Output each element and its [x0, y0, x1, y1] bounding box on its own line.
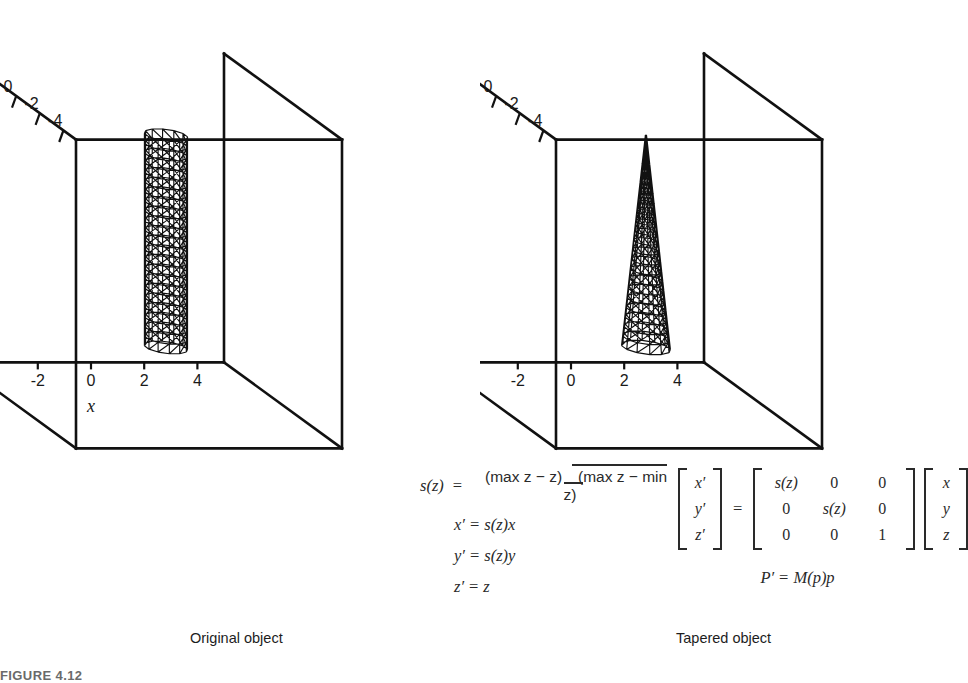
equation-y-prime-rhs: s(z)y	[484, 546, 515, 565]
figure-number: FIGURE 4.12	[0, 668, 82, 683]
equation-z-prime-lhs: z′	[454, 577, 464, 596]
matrix-equations: x′ y′ z′ = s(z) 0 0 0 s(z) 0	[678, 468, 959, 588]
s-of-z-definition: s(z) = (max z − z) (max z − min z)	[420, 468, 675, 504]
matrix-summary-rhs: M(p)p	[793, 568, 834, 587]
equation-z-prime-op: =	[464, 577, 483, 596]
matrix-cell: 0	[810, 522, 858, 548]
x-tick-label: 2	[620, 372, 629, 389]
y-tick-label: -2	[24, 95, 38, 112]
input-vector: x y z	[924, 468, 968, 550]
fraction-numerator: (max z − z)	[479, 468, 568, 487]
x-tick-label: 4	[193, 372, 202, 389]
result-vector: x′ y′ z′	[678, 468, 722, 550]
equation-x-prime-lhs: x′	[454, 515, 465, 534]
s-of-z-fraction: (max z − z) (max z − min z)	[471, 468, 675, 504]
equation-y-prime: y′=s(z)y	[454, 546, 675, 566]
x-tick-label: 0	[567, 372, 576, 389]
x-tick-label: 4	[673, 372, 682, 389]
fraction-denominator: (max z − min z)	[564, 464, 668, 503]
equation-y-prime-op: =	[465, 546, 484, 565]
matrix-equals: =	[731, 499, 744, 519]
caption-tapered-object: Tapered object	[676, 630, 771, 646]
matrix-equation: x′ y′ z′ = s(z) 0 0 0 s(z) 0	[678, 468, 959, 550]
input-vector-cell: x	[933, 470, 959, 496]
x-tick-label: -2	[31, 372, 45, 389]
y-tick-label: 0	[484, 78, 493, 95]
mesh-cone	[622, 135, 671, 355]
x-tick-label: 0	[87, 372, 96, 389]
input-vector-cell: y	[933, 496, 959, 522]
equation-z-prime-rhs: z	[483, 577, 489, 596]
x-tick-label: 2	[140, 372, 149, 389]
result-vector-cell: z′	[687, 522, 713, 548]
matrix-summary-lhs: P′	[760, 568, 774, 587]
caption-original-object: Original object	[190, 630, 283, 646]
y-tick-label: -2	[504, 95, 518, 112]
caption-row: Original object Tapered object	[0, 630, 959, 654]
matrix-cell: 0	[858, 496, 906, 522]
y-tick-label: -4	[528, 112, 542, 129]
matrix-cell: 0	[762, 496, 810, 522]
matrix-cell: s(z)	[810, 496, 858, 522]
equation-y-prime-lhs: y′	[454, 546, 465, 565]
x-axis-label: x	[86, 396, 95, 416]
x-tick-label: -2	[511, 372, 525, 389]
transform-matrix: s(z) 0 0 0 s(z) 0 0 0 1	[753, 468, 915, 550]
matrix-summary-op: =	[774, 568, 793, 587]
input-vector-cell: z	[933, 522, 959, 548]
s-of-z-equals: =	[451, 476, 464, 496]
s-of-z-lhs: s(z)	[420, 476, 444, 496]
matrix-row: 0 s(z) 0	[762, 496, 906, 522]
y-tick-label: 0	[4, 78, 13, 95]
equation-x-prime: x′=s(z)x	[454, 515, 675, 535]
mesh-cylinder	[144, 129, 187, 354]
matrix-summary-equation: P′=M(p)p	[678, 568, 959, 588]
matrix-cell: 0	[858, 470, 906, 496]
matrix-cell: 0	[762, 522, 810, 548]
plot-panel-tapered: 420-2-4-4-2024420-2-4	[480, 0, 959, 470]
result-vector-cell: y′	[687, 496, 713, 522]
matrix-row: 0 0 1	[762, 522, 906, 548]
result-vector-cell: x′	[687, 470, 713, 496]
equation-z-prime: z′=z	[454, 577, 675, 597]
equation-block: s(z) = (max z − z) (max z − min z) x′=s(…	[420, 468, 959, 618]
scalar-equations: s(z) = (max z − z) (max z − min z) x′=s(…	[420, 468, 675, 597]
matrix-cell: s(z)	[762, 470, 810, 496]
matrix-cell: 1	[858, 522, 906, 548]
equation-x-prime-rhs: s(z)x	[484, 515, 515, 534]
matrix-row: s(z) 0 0	[762, 470, 906, 496]
equation-x-prime-op: =	[465, 515, 484, 534]
matrix-cell: 0	[810, 470, 858, 496]
y-tick-label: -4	[48, 112, 62, 129]
plot-panel-original: 420-2-4z-4-2024x420-2-4y	[0, 0, 480, 470]
